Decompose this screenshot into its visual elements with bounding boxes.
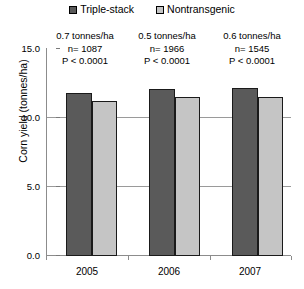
- x-tick-mark-left: [46, 256, 47, 260]
- annotation-pvalue-2006: P < 0.0001: [125, 55, 209, 68]
- bar-nontransgenic-2006: [175, 97, 200, 256]
- annotation-difference-2007: 0.6 tonnes/ha: [210, 30, 294, 43]
- x-category-label-2006: 2006: [127, 266, 211, 277]
- legend-entry-nontransgenic: Nontransgenic: [156, 4, 235, 15]
- bar-triple-stack-2007: [232, 88, 258, 256]
- legend-label-nontransgenic: Nontransgenic: [167, 4, 235, 15]
- legend-entry-triple-stack: Triple-stack: [69, 4, 134, 15]
- annotation-group-2007: 0.6 tonnes/ha n= 1545 P < 0.0001: [210, 30, 294, 68]
- annotation-difference-2006: 0.5 tonnes/ha: [125, 30, 209, 43]
- x-category-label-2007: 2007: [208, 266, 292, 277]
- y-tick-label-10: 10.0: [14, 113, 40, 123]
- y-tick-mark-10: [56, 117, 60, 118]
- y-axis-line: [46, 48, 47, 256]
- y-tick-mark-5: [56, 186, 60, 187]
- y-tick-label-0: 0.0: [14, 251, 40, 261]
- x-category-label-2005: 2005: [45, 266, 129, 277]
- y-tick-mark-0: [56, 255, 60, 256]
- chart-legend: Triple-stack Nontransgenic: [0, 4, 304, 15]
- legend-swatch-nontransgenic: [156, 6, 164, 14]
- y-tick-label-5: 5.0: [14, 182, 40, 192]
- annotation-group-2006: 0.5 tonnes/ha n= 1966 P < 0.0001: [125, 30, 209, 68]
- y-tick-mark-15: [56, 48, 60, 49]
- annotation-n-2007: n= 1545: [210, 43, 294, 56]
- legend-swatch-triple-stack: [69, 6, 77, 14]
- bar-triple-stack-2006: [149, 89, 175, 256]
- annotation-pvalue-2005: P < 0.0001: [43, 55, 127, 68]
- annotation-pvalue-2007: P < 0.0001: [210, 55, 294, 68]
- corn-yield-bar-chart: Triple-stack Nontransgenic 0.7 tonnes/ha…: [0, 0, 304, 289]
- bar-nontransgenic-2007: [258, 97, 283, 256]
- y-tick-label-15: 15.0: [14, 44, 40, 54]
- y-axis-ticks: 15.0 10.0 5.0 0.0: [14, 0, 40, 289]
- bar-triple-stack-2005: [66, 93, 92, 256]
- bar-nontransgenic-2005: [92, 101, 117, 256]
- annotation-n-2006: n= 1966: [125, 43, 209, 56]
- x-tick-mark-right: [291, 256, 292, 260]
- x-tick-mark-2: [210, 256, 211, 260]
- annotation-difference-2005: 0.7 tonnes/ha: [43, 30, 127, 43]
- x-tick-mark-1: [128, 256, 129, 260]
- legend-label-triple-stack: Triple-stack: [80, 4, 134, 15]
